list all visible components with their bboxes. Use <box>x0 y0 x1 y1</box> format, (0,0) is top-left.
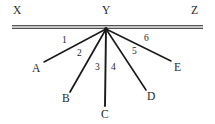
point-label-B: B <box>62 93 70 105</box>
ray-YC <box>105 29 106 106</box>
geometry-figure: X Y Z A B C D E 1 2 3 4 5 6 <box>0 0 215 124</box>
angle-label-6: 6 <box>144 34 149 44</box>
point-label-E: E <box>174 62 181 74</box>
angle-label-3: 3 <box>95 63 100 73</box>
angle-label-4: 4 <box>111 63 116 73</box>
point-label-Y: Y <box>102 5 111 17</box>
point-label-Z: Z <box>191 5 198 17</box>
point-label-X: X <box>13 5 22 17</box>
angle-label-5: 5 <box>132 47 137 57</box>
angle-label-2: 2 <box>77 49 82 59</box>
point-label-C: C <box>101 109 109 121</box>
point-label-A: A <box>32 63 41 75</box>
vertex-point-Y <box>104 27 108 31</box>
point-label-D: D <box>147 91 156 103</box>
angle-label-1: 1 <box>62 36 67 46</box>
